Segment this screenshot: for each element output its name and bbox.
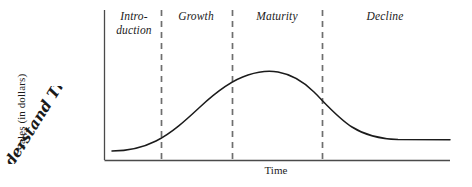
chart-canvas [0,0,472,187]
x-axis-label: Time [216,164,336,176]
stage-label-introduction: Intro- duction [108,10,160,37]
stage-label-maturity: Maturity [238,10,316,24]
product-life-cycle-figure: Understand This!!! Intro- duction Growth… [0,0,472,187]
sales-curve [112,71,450,151]
stage-label-growth: Growth [166,10,226,24]
stage-label-decline: Decline [330,10,440,24]
y-axis-label: Sales (in dollars) [15,52,27,172]
